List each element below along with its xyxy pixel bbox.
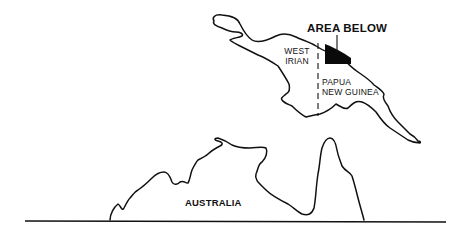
west-irian-label: WEST IRIAN [282,47,312,67]
area-below-label: AREA BELOW [307,22,387,35]
west-irian-line2: IRIAN [282,57,312,67]
location-map: AREA BELOW WEST IRIAN PAPUA NEW GUINEA A… [0,0,467,235]
australia-label: AUSTRALIA [185,198,242,209]
map-baseline [25,221,446,222]
highlighted-study-area [325,44,351,64]
png-line2: NEW GUINEA [322,88,372,98]
papua-new-guinea-label: PAPUA NEW GUINEA [322,78,372,98]
